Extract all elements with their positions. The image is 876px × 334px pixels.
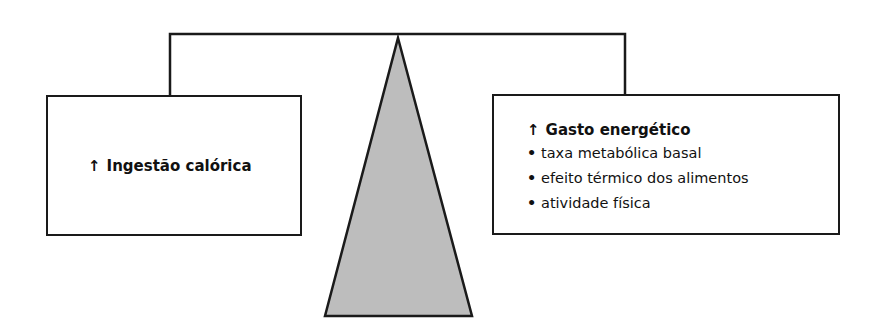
bullet-icon: •	[527, 191, 541, 216]
list-item: •efeito térmico dos alimentos	[527, 166, 749, 191]
up-arrow-icon: ↑	[527, 119, 540, 141]
energy-expenditure-heading: ↑Gasto energético	[527, 119, 749, 141]
list-item: •taxa metabólica basal	[527, 141, 749, 166]
energy-expenditure-box: ↑Gasto energético •taxa metabólica basal…	[492, 94, 840, 235]
list-item-text: taxa metabólica basal	[541, 145, 701, 161]
caloric-intake-box: ↑Ingestão calórica	[46, 95, 302, 236]
bullet-icon: •	[527, 141, 541, 166]
expenditure-components-list: •taxa metabólica basal •efeito térmico d…	[527, 141, 749, 216]
bullet-icon: •	[527, 166, 541, 191]
list-item-text: efeito térmico dos alimentos	[541, 170, 749, 186]
caloric-intake-label: ↑Ingestão calórica	[88, 157, 252, 175]
up-arrow-icon: ↑	[88, 157, 101, 175]
list-item: •atividade física	[527, 191, 749, 216]
list-item-text: atividade física	[541, 195, 651, 211]
caloric-intake-text: Ingestão calórica	[107, 157, 252, 175]
fulcrum-triangle	[325, 38, 472, 316]
energy-expenditure-text: Gasto energético	[546, 121, 691, 139]
